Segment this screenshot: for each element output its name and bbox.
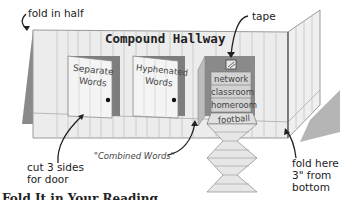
- word-homeroom: homeroom: [211, 99, 257, 111]
- word-classroom: classroom: [211, 86, 254, 98]
- fold-here-label-line1: fold here: [292, 157, 339, 169]
- door-1-knob: [106, 98, 110, 102]
- diagram-title: Compound Hallway: [105, 33, 225, 45]
- fold-here-label-line2: 3" from: [292, 169, 331, 181]
- cut-door-label-line2: for door: [27, 173, 69, 185]
- cut-door-label-line1: cut 3 sides: [27, 161, 84, 173]
- tape-label: tape: [252, 10, 276, 22]
- door-2-knob: [172, 98, 176, 102]
- word-network: network: [214, 73, 249, 85]
- fold-here-label-line3: bottom: [292, 181, 330, 193]
- word-football: football: [218, 112, 251, 126]
- fold-in-half-label: fold in half: [28, 7, 84, 19]
- left-shadow: [22, 30, 33, 124]
- combined-words-label: "Combined Words": [94, 150, 175, 162]
- footer-heading-partial: Fold It in Your Reading: [2, 193, 158, 200]
